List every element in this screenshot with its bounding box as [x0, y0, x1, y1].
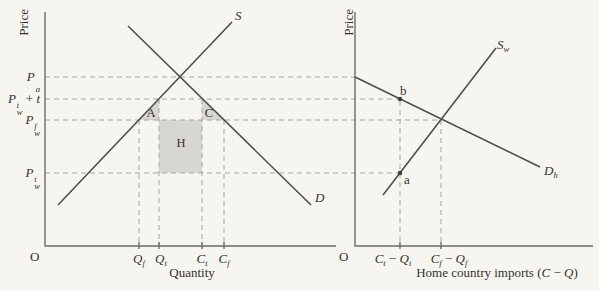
price-label-pwf: Pfw — [25, 112, 40, 138]
tick-label-qt: Qt — [155, 251, 167, 271]
left-price-axis-label: Price — [16, 9, 32, 36]
region-c-label: C — [205, 106, 213, 121]
import-demand-curve-label: Dh — [544, 163, 558, 183]
tick-label-cf-minus-qf: Cf − Qf — [431, 251, 468, 271]
world-supply-curve-label: Sw — [497, 37, 509, 57]
left-origin-label: O — [30, 249, 39, 264]
price-label-pa: Pa — [27, 69, 40, 93]
point-b-label: b — [400, 83, 407, 98]
supply-curve-label: S — [235, 8, 242, 23]
region-a-label: A — [146, 106, 155, 121]
tick-label-qf: Qf — [133, 251, 145, 271]
quantity-axis-caption: Quantity — [169, 265, 215, 280]
import-demand-curve — [355, 77, 540, 167]
point-a-label: a — [404, 172, 410, 187]
right-price-axis-label: Price — [341, 9, 357, 36]
right-origin-label: O — [339, 249, 348, 264]
tick-label-ct-minus-qt: Ct − Qt — [375, 251, 412, 271]
price-label-pwt: Ptw — [25, 165, 40, 191]
right-axes — [355, 12, 593, 246]
demand-curve-label: D — [315, 190, 324, 205]
point-a-dot — [398, 171, 402, 175]
tariff-two-panel-figure: Price Price Pa Ptw + t Pfw Ptw O O Qf Qt… — [0, 0, 599, 291]
region-h-label: H — [176, 136, 185, 151]
tick-label-cf: Cf — [218, 251, 229, 271]
